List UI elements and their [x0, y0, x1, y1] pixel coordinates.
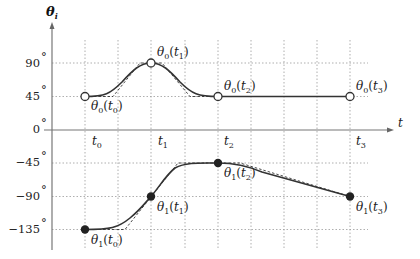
theta0-curve — [85, 63, 350, 97]
theta1-t2-marker — [214, 159, 222, 167]
theta1-t0-marker — [81, 225, 89, 233]
theta0-linear-approx — [85, 63, 218, 97]
theta0-markers — [81, 59, 354, 101]
label-theta1-t3: θ1(t3) — [356, 200, 388, 216]
label-theta0-t3: θ0(t3) — [356, 79, 388, 95]
joint-trajectory-diagram: θi t 90 45 0 −45 −90 −135 ° ° ° ° ° ° t0… — [0, 0, 420, 259]
y-tick-neg135: −135 — [8, 222, 40, 236]
theta0-labels: θ0(t0) θ0(t1) θ0(t2) θ0(t3) — [91, 45, 388, 115]
svg-text:°: ° — [41, 83, 47, 97]
y-axis-arrow-icon — [50, 22, 55, 29]
theta0-t1-marker — [147, 59, 155, 67]
svg-text:°: ° — [41, 216, 47, 230]
theta0-t3-marker — [346, 93, 354, 101]
y-tick-45: 45 — [25, 89, 40, 103]
svg-text:°: ° — [41, 116, 47, 130]
theta0-t2-marker — [214, 93, 222, 101]
vertical-grid — [85, 40, 350, 248]
y-tick-neg45: −45 — [16, 155, 40, 169]
x-axis-title: t — [398, 116, 403, 130]
label-theta0-t2: θ0(t2) — [224, 79, 256, 95]
y-tick-labels: 90 45 0 −45 −90 −135 ° ° ° ° ° ° — [8, 50, 46, 236]
y-tick-0: 0 — [33, 122, 40, 136]
label-theta0-t1: θ0(t1) — [157, 45, 189, 61]
svg-text:°: ° — [41, 149, 47, 163]
y-tick-90: 90 — [25, 56, 40, 70]
label-theta1-t1: θ1(t1) — [157, 200, 189, 216]
y-tick-neg90: −90 — [16, 189, 40, 203]
x-tick-t0: t0 — [92, 134, 102, 150]
label-theta0-t0: θ0(t0) — [91, 99, 123, 115]
svg-text:°: ° — [41, 183, 47, 197]
label-theta1-t2: θ1(t2) — [224, 166, 256, 182]
theta0-t0-marker — [81, 93, 89, 101]
y-axis-title: θi — [46, 4, 58, 21]
svg-text:°: ° — [41, 50, 47, 64]
x-tick-t3: t3 — [356, 134, 366, 150]
theta1-t3-marker — [346, 192, 354, 200]
x-tick-t2: t2 — [224, 134, 234, 150]
x-axis-arrow-icon — [387, 128, 394, 133]
theta1-t1-marker — [147, 192, 155, 200]
x-tick-labels: t0 t1 t2 t3 — [92, 134, 366, 150]
diagram-canvas: θi t 90 45 0 −45 −90 −135 ° ° ° ° ° ° t0… — [0, 0, 420, 259]
x-tick-t1: t1 — [158, 134, 168, 150]
label-theta1-t0: θ1(t0) — [91, 233, 123, 249]
theta1-labels: θ1(t0) θ1(t1) θ1(t2) θ1(t3) — [91, 166, 388, 249]
